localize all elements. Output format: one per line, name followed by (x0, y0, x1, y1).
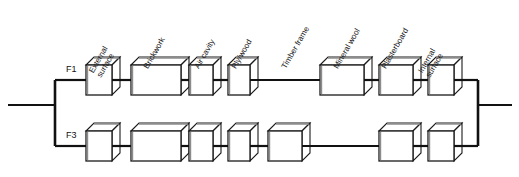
box-front-face (428, 131, 454, 161)
network-svg (0, 0, 519, 177)
box-front-face (86, 131, 112, 161)
resistor-box-F1-brickwork (131, 57, 189, 95)
path-label-F1: F1 (66, 64, 77, 74)
box-front-face (379, 131, 413, 161)
thermal-resistance-network-diagram: ExternalsurfaceBrickworkAir cavityPly/wo… (0, 0, 519, 177)
box-front-face (131, 131, 181, 161)
resistor-box-F3-plasterboard (379, 123, 421, 161)
box-front-face (379, 65, 413, 95)
box-front-face (189, 131, 213, 161)
resistor-box-F3-external-surface (86, 123, 120, 161)
resistor-box-F3-brickwork (131, 123, 189, 161)
resistor-box-F3-ply-wood (228, 123, 258, 161)
resistor-box-F3-air-cavity (189, 123, 221, 161)
box-front-face (131, 65, 181, 95)
resistor-box-F3-timber-frame (268, 123, 310, 161)
resistor-box-F3-internal-surface (428, 123, 462, 161)
box-front-face (268, 131, 302, 161)
resistor-box-F1-mineral-wool (320, 57, 372, 95)
box-front-face (228, 131, 250, 161)
box-front-face (320, 65, 364, 95)
path-label-F3: F3 (66, 130, 77, 140)
box-front-face (228, 65, 250, 95)
